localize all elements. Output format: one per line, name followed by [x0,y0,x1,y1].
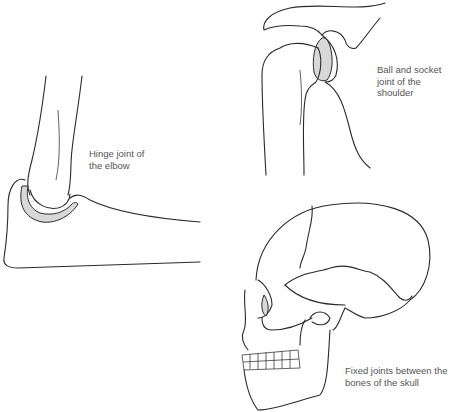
elbow-caption-line-2: the elbow [89,160,144,172]
skull-caption-line-1: Fixed joints between the [345,365,447,377]
shoulder-caption-line-1: Ball and socket [377,64,441,76]
elbow-caption: Hinge joint of the elbow [89,148,144,171]
elbow-caption-line-1: Hinge joint of [89,148,144,160]
shoulder-caption-line-3: shoulder [377,87,441,99]
shoulder-joint-illustration [262,3,385,175]
shoulder-caption: Ball and socket joint of the shoulder [377,64,441,99]
elbow-joint-illustration [4,76,200,268]
skull-caption: Fixed joints between the bones of the sk… [345,365,447,388]
skull-caption-line-2: bones of the skull [345,377,447,389]
joints-diagram [0,0,469,412]
teeth [242,350,300,370]
shoulder-caption-line-2: joint of the [377,76,441,88]
